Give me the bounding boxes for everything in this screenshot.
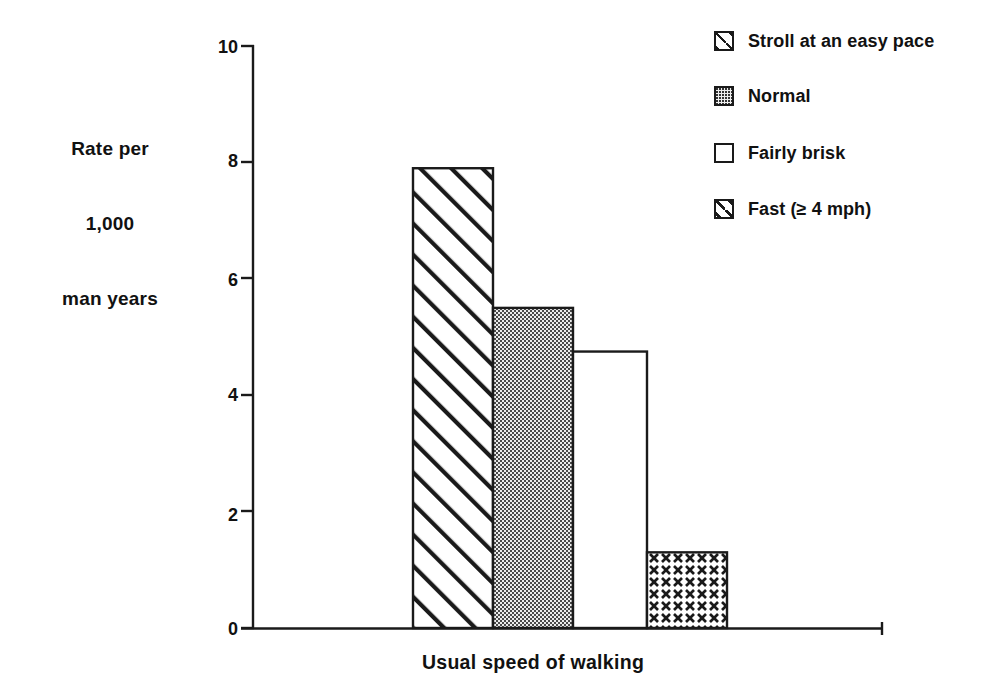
- plot-area: [0, 0, 1008, 698]
- bar-fairly-brisk[interactable]: [573, 352, 647, 628]
- bar-normal[interactable]: [493, 308, 573, 628]
- bar-fast-4-mph[interactable]: [647, 552, 727, 628]
- legend-item-stroll-at-an-easy-pace[interactable]: Stroll at an easy pace: [714, 28, 934, 54]
- stipple-dots-swatch-icon: [714, 86, 734, 106]
- legend-item-fast-4-mph[interactable]: Fast (≥ 4 mph): [714, 196, 871, 222]
- legend-label-normal: Normal: [748, 86, 811, 107]
- x-axis-title: Usual speed of walking: [368, 650, 698, 675]
- legend-label-fast-4-mph: Fast (≥ 4 mph): [748, 199, 871, 220]
- legend-label-stroll-at-an-easy-pace: Stroll at an easy pace: [748, 31, 934, 52]
- legend-item-normal[interactable]: Normal: [714, 83, 811, 109]
- legend-label-fairly-brisk: Fairly brisk: [748, 143, 845, 164]
- diagonal-hatch-swatch-icon: [714, 31, 734, 51]
- empty-white-swatch-icon: [714, 143, 734, 163]
- bars-group: [413, 168, 727, 628]
- cross-hatch-swatch-icon: [714, 199, 734, 219]
- chart-figure: Rate per 1,000 man years 10 8 6 4 2 0: [0, 0, 1008, 698]
- bar-stroll-at-an-easy-pace[interactable]: [413, 168, 493, 628]
- legend-item-fairly-brisk[interactable]: Fairly brisk: [714, 140, 845, 166]
